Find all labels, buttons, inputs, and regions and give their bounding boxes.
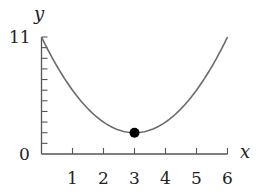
x-tick-label: 1	[67, 168, 78, 188]
x-tick-label: 5	[191, 168, 202, 188]
minimum-point-marker	[130, 128, 140, 138]
parabola-curve	[42, 37, 228, 133]
x-tick-label: 6	[222, 168, 233, 188]
parabola-chart: 123456 0 11 x y	[0, 0, 259, 195]
x-tick-label: 2	[98, 168, 109, 188]
x-tick-label: 4	[160, 168, 171, 188]
origin-label: 0	[19, 144, 30, 164]
y-max-label: 11	[9, 27, 31, 47]
x-tick-labels: 123456	[67, 168, 233, 188]
x-tick-label: 3	[129, 168, 140, 188]
x-axis-label: x	[240, 141, 250, 162]
y-axis-label: y	[33, 3, 45, 24]
